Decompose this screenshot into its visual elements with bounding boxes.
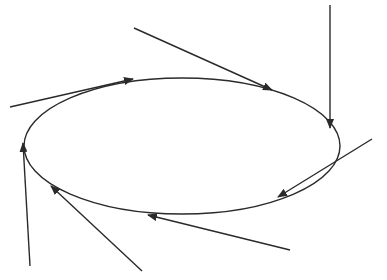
tangent-arrows	[10, 5, 372, 271]
orbit-ellipse	[24, 78, 340, 214]
orbit-diagram	[0, 0, 387, 280]
arrow-5	[148, 215, 290, 250]
arrow-2	[134, 28, 272, 90]
arrow-6	[51, 186, 142, 271]
arrow-4	[278, 139, 372, 197]
arrow-7	[23, 143, 30, 266]
arrow-1	[10, 79, 133, 107]
